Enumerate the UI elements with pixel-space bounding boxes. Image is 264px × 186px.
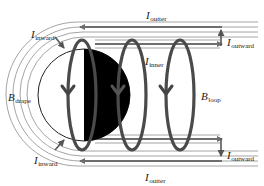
label-i-outward-top: Ioutward [227,33,254,50]
label-i-outward-bottom: Ioutward [227,146,254,163]
label-i-inward-bottom: Iinward [34,151,58,168]
label-i-outter-top: Ioutter [146,6,167,23]
label-b-drape: Bdrape [8,88,31,105]
arrow-inward-icon [55,37,64,48]
label-i-inward-top: Iinward [31,25,55,42]
loop-3 [166,40,194,150]
disk [38,49,130,141]
label-b-loop: Bloop [201,87,221,104]
label-i-outter-bottom: Ioutter [145,168,166,185]
label-i-inner: Iinner [145,52,164,69]
arrow-inward-icon [55,140,64,150]
